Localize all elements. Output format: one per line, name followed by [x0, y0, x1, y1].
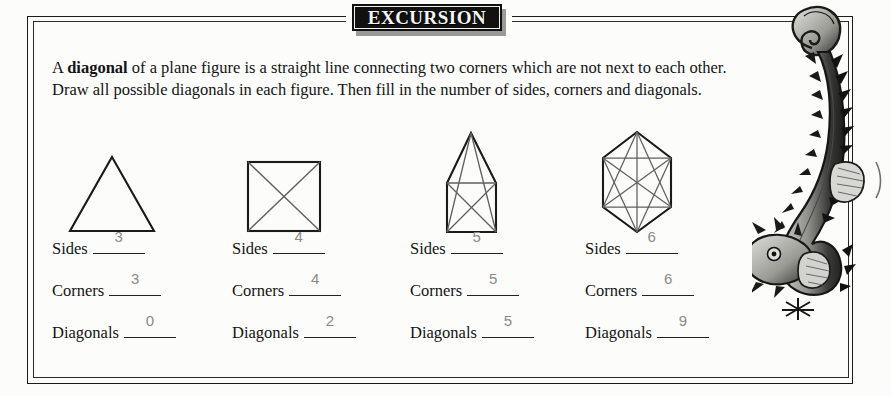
diagonals-blank-triangle[interactable]: 0	[124, 320, 176, 338]
seahorse-illustration	[752, 2, 891, 380]
corners-blank-pentagon[interactable]: 5	[467, 278, 519, 296]
sides-blank-pentagon[interactable]: 5	[451, 236, 503, 254]
figure-hexagon	[595, 125, 695, 237]
diagonals-value-pentagon: 5	[482, 312, 534, 329]
corners-value-hexagon: 6	[642, 270, 694, 287]
seahorse-fin-fragment	[876, 162, 881, 198]
instruction-paragraph: A diagonal of a plane figure is a straig…	[52, 57, 732, 101]
label-sides: Sides	[410, 239, 446, 259]
label-sides: Sides	[52, 239, 88, 259]
label-diagonals: Diagonals	[232, 323, 299, 343]
corners-blank-hexagon[interactable]: 6	[642, 278, 694, 296]
excursion-banner: EXCURSION	[352, 4, 506, 34]
row-diagonals: Diagonals5	[410, 320, 534, 362]
triangle-outline	[70, 157, 154, 231]
label-corners: Corners	[52, 281, 104, 301]
row-diagonals: Diagonals0	[52, 320, 176, 362]
figure-triangle	[60, 125, 164, 237]
banner-title: EXCURSION	[352, 4, 502, 31]
sides-value-square: 4	[273, 228, 325, 245]
corners-value-triangle: 3	[109, 270, 161, 287]
label-corners: Corners	[410, 281, 462, 301]
seahorse-fin	[830, 162, 864, 202]
sides-value-triangle: 3	[93, 228, 145, 245]
row-diagonals: Diagonals2	[232, 320, 356, 362]
paragraph-lead: A	[52, 58, 67, 77]
answers-hexagon: Sides6 Corners6 Diagonals9	[585, 236, 709, 362]
figures-row	[0, 125, 760, 237]
diagonals-value-square: 2	[304, 312, 356, 329]
sides-value-pentagon: 5	[451, 228, 503, 245]
square-diagonals	[248, 162, 320, 231]
corners-blank-triangle[interactable]: 3	[109, 278, 161, 296]
diagonals-value-triangle: 0	[124, 312, 176, 329]
paragraph-rest: of a plane figure is a straight line con…	[52, 58, 727, 99]
corners-blank-square[interactable]: 4	[289, 278, 341, 296]
label-sides: Sides	[232, 239, 268, 259]
seahorse-tail	[793, 7, 840, 55]
label-sides: Sides	[585, 239, 621, 259]
diagonals-blank-pentagon[interactable]: 5	[482, 320, 534, 338]
figure-pentagon	[430, 125, 530, 237]
seahorse-coronet	[782, 298, 814, 320]
figure-square	[240, 125, 340, 237]
sides-blank-square[interactable]: 4	[273, 236, 325, 254]
sides-blank-triangle[interactable]: 3	[93, 236, 145, 254]
answers-square: Sides4 Corners4 Diagonals2	[232, 236, 356, 362]
label-corners: Corners	[232, 281, 284, 301]
pentagon-diagonals	[447, 133, 496, 232]
label-diagonals: Diagonals	[52, 323, 119, 343]
label-corners: Corners	[585, 281, 637, 301]
sides-blank-hexagon[interactable]: 6	[626, 236, 678, 254]
seahorse-cheek-plate	[798, 252, 830, 288]
answers-triangle: Sides3 Corners3 Diagonals0	[52, 236, 176, 362]
row-diagonals: Diagonals9	[585, 320, 709, 362]
diagonals-value-hexagon: 9	[657, 312, 709, 329]
corners-value-pentagon: 5	[467, 270, 519, 287]
diagonals-blank-hexagon[interactable]: 9	[657, 320, 709, 338]
label-diagonals: Diagonals	[410, 323, 477, 343]
answers-pentagon: Sides5 Corners5 Diagonals5	[410, 236, 534, 362]
label-diagonals: Diagonals	[585, 323, 652, 343]
worksheet-page: EXCURSION A diagonal of a plane figure i…	[0, 0, 891, 396]
term-diagonal: diagonal	[67, 58, 128, 77]
sides-value-hexagon: 6	[626, 228, 678, 245]
diagonals-blank-square[interactable]: 2	[304, 320, 356, 338]
hexagon-diagonals	[603, 132, 671, 232]
corners-value-square: 4	[289, 270, 341, 287]
